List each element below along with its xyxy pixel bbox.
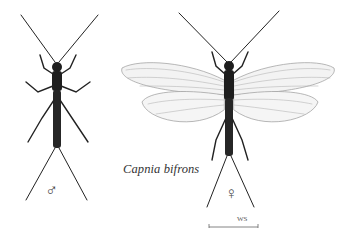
male-symbol: ♂: [45, 182, 58, 199]
stonefly-illustration: [0, 0, 346, 241]
female-symbol: ♀: [225, 185, 238, 202]
female-stonefly: [122, 11, 335, 207]
scale-bar: [209, 224, 258, 228]
species-label: Capnia bifrons: [123, 162, 199, 177]
male-stonefly: [21, 15, 98, 200]
scale-bar-label: WS: [237, 215, 248, 223]
